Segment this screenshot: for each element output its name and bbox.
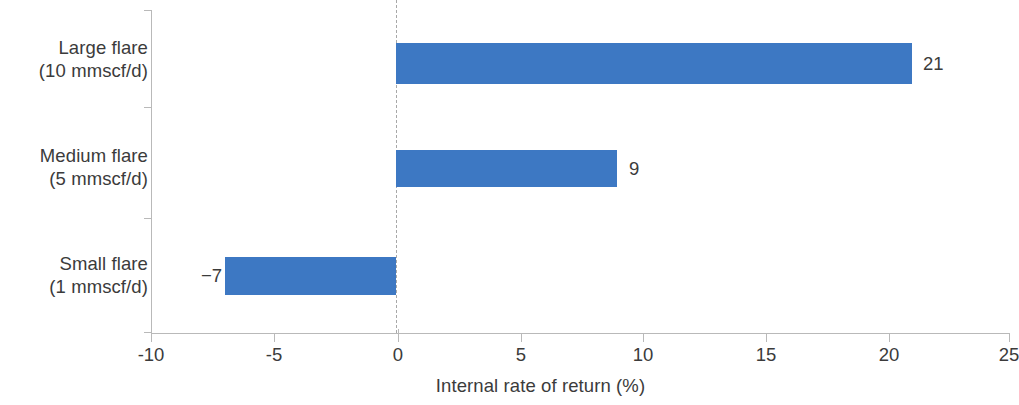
x-axis-tick-label: 5 <box>516 346 526 365</box>
x-axis-tick-label: -5 <box>266 346 282 365</box>
x-axis-tick-label: 25 <box>999 346 1019 365</box>
y-axis-label-large-flare: Large flare (10 mmscf/d) <box>6 36 148 82</box>
x-axis-tick <box>274 333 275 342</box>
x-axis-tick <box>151 329 152 342</box>
data-label-medium-flare: 9 <box>629 160 639 179</box>
data-label-small-flare: −7 <box>175 267 222 286</box>
x-axis-tick-label: 0 <box>393 346 403 365</box>
y-axis-tick <box>144 10 152 11</box>
y-axis-label-large-flare-line2: (10 mmscf/d) <box>6 59 148 82</box>
bar-medium-flare[interactable] <box>396 150 617 187</box>
y-axis-label-medium-flare-line1: Medium flare <box>6 144 148 167</box>
x-axis-tick <box>889 333 890 342</box>
x-axis-line: -10 -5 0 5 10 15 20 25 <box>151 333 1010 334</box>
y-axis-label-small-flare: Small flare (1 mmscf/d) <box>6 252 148 298</box>
x-axis-tick <box>521 333 522 342</box>
x-axis-tick <box>643 333 644 342</box>
y-axis-label-small-flare-line1: Small flare <box>6 252 148 275</box>
y-axis-label-large-flare-line1: Large flare <box>6 36 148 59</box>
x-axis-tick-label: 15 <box>756 346 777 365</box>
y-axis-tick <box>144 218 152 219</box>
y-axis-category-labels: Large flare (10 mmscf/d) Medium flare (5… <box>0 0 148 333</box>
y-axis-label-small-flare-line2: (1 mmscf/d) <box>6 275 148 298</box>
data-label-large-flare: 21 <box>923 55 944 74</box>
x-axis-tick-label: 10 <box>633 346 654 365</box>
x-axis-tick-label: -10 <box>138 346 165 365</box>
x-axis-title-text: Internal rate of return (%) <box>436 375 645 396</box>
y-axis-label-medium-flare: Medium flare (5 mmscf/d) <box>6 144 148 190</box>
y-axis-tick <box>144 107 152 108</box>
x-axis-tick <box>398 329 399 342</box>
y-axis-line <box>151 10 152 333</box>
x-axis-tick-label: 20 <box>879 346 900 365</box>
x-axis-tick <box>766 333 767 342</box>
x-axis-title: Internal rate of return (%) <box>0 375 1019 397</box>
bar-small-flare[interactable] <box>225 257 397 295</box>
plot-area: 21 9 −7 <box>151 10 1010 333</box>
bar-large-flare[interactable] <box>396 43 911 84</box>
y-axis-label-medium-flare-line2: (5 mmscf/d) <box>6 167 148 190</box>
bar-chart: Large flare (10 mmscf/d) Medium flare (5… <box>0 0 1019 405</box>
x-axis-tick <box>1009 333 1010 342</box>
